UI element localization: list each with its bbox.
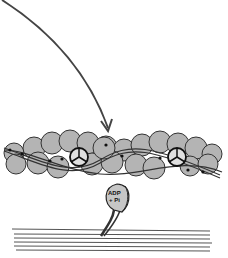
troponin-complex-1 — [70, 148, 88, 166]
diagram-canvas — [0, 0, 228, 258]
myosin-head-label-pi: + Pi — [109, 197, 120, 204]
curved-arrow — [2, 0, 112, 131]
thick-filament — [12, 229, 212, 251]
myosin-head-label-adp: ADP — [108, 190, 121, 197]
troponin-complex-2 — [168, 148, 186, 166]
actin-filament — [4, 130, 222, 179]
